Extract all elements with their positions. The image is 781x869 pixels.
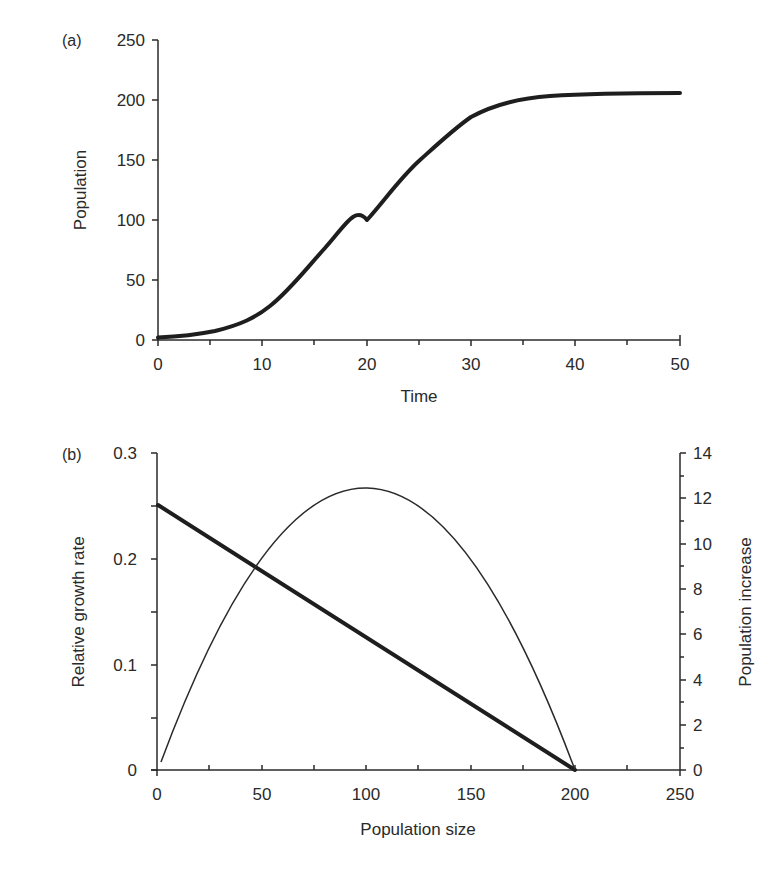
panel-b-x-tick-labels: 0 50 100 150 200 250 — [152, 785, 694, 804]
x-tick-label: 50 — [671, 355, 690, 374]
y-tick-label: 250 — [117, 31, 145, 50]
x-tick-label: 20 — [358, 355, 377, 374]
y-tick-label: 0.2 — [113, 550, 137, 569]
y-tick-label: 100 — [117, 211, 145, 230]
y2-tick-label: 6 — [693, 625, 702, 644]
panel-b-label: (b) — [62, 446, 82, 463]
panel-a-y-tick-labels: 250 200 150 100 50 0 — [117, 31, 145, 350]
x-tick-label: 250 — [666, 785, 694, 804]
panel-a: (a) 250 200 150 — [62, 31, 689, 406]
panel-a-x-tick-labels: 0 10 20 30 40 50 — [153, 355, 689, 374]
panel-b-axes — [151, 453, 686, 776]
panel-b-right-y-axis-title: Population increase — [736, 537, 755, 686]
y-tick-label: 0.3 — [113, 444, 137, 463]
y2-tick-label: 2 — [693, 716, 702, 735]
y-tick-label: 0 — [136, 331, 145, 350]
x-tick-label: 0 — [153, 355, 162, 374]
y-tick-label: 0 — [128, 761, 137, 780]
panel-a-label: (a) — [62, 32, 82, 49]
x-tick-label: 150 — [457, 785, 485, 804]
y-tick-label: 50 — [126, 271, 145, 290]
panel-a-axes — [152, 40, 680, 346]
x-tick-label: 10 — [253, 355, 272, 374]
panel-b-x-axis-title: Population size — [360, 820, 475, 839]
x-tick-label: 200 — [561, 785, 589, 804]
x-tick-label: 40 — [566, 355, 585, 374]
y-tick-label: 150 — [117, 151, 145, 170]
x-tick-label: 100 — [352, 785, 380, 804]
y2-tick-label: 0 — [693, 761, 702, 780]
panel-b-left-y-axis-title: Relative growth rate — [69, 536, 88, 687]
x-tick-label: 50 — [253, 785, 272, 804]
panel-a-logistic-curve — [158, 93, 680, 338]
y2-tick-label: 8 — [693, 580, 702, 599]
y2-tick-label: 12 — [693, 489, 712, 508]
y2-tick-label: 4 — [693, 671, 702, 690]
panel-b-left-tick-labels: 0.3 0.2 0.1 0 — [113, 444, 137, 780]
y2-tick-label: 14 — [693, 444, 712, 463]
population-increase-curve — [161, 488, 575, 770]
panel-a-x-axis-title: Time — [400, 387, 437, 406]
panel-a-y-axis-title: Population — [71, 150, 90, 230]
figure: (a) 250 200 150 — [0, 0, 781, 869]
x-tick-label: 30 — [462, 355, 481, 374]
y2-tick-label: 10 — [693, 535, 712, 554]
relative-growth-rate-line — [158, 505, 575, 770]
panel-b-right-tick-labels: 14 12 10 8 6 4 2 0 — [693, 444, 712, 780]
y-tick-label: 0.1 — [113, 656, 137, 675]
x-tick-label: 0 — [152, 785, 161, 804]
panel-b: (b) — [62, 444, 755, 839]
y-tick-label: 200 — [117, 91, 145, 110]
